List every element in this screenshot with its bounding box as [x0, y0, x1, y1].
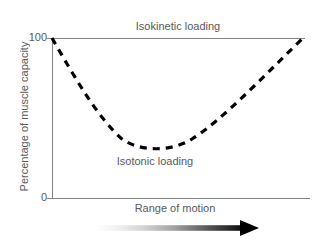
isotonic-loading-label: Isotonic loading [95, 156, 215, 167]
arrow-head [240, 220, 259, 236]
isotonic-loading-curve [52, 38, 303, 149]
range-of-motion-arrow [95, 220, 259, 236]
arrow-shaft [95, 225, 247, 231]
y-axis-title: Percentage of muscle capacity [19, 27, 30, 207]
x-axis-title: Range of motion [95, 203, 255, 214]
chart-figure: 100 0 Percentage of muscle capacity Isok… [0, 0, 313, 241]
isokinetic-loading-label: Isokinetic loading [52, 21, 304, 32]
